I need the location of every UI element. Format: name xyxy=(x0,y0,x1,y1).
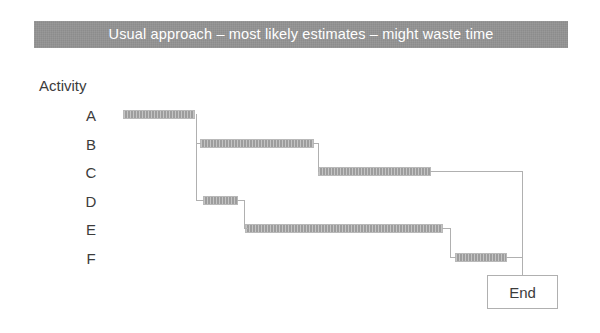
task-bar-d[interactable] xyxy=(203,196,238,205)
axis-caption-activity: Activity xyxy=(39,78,87,93)
row-label-c: C xyxy=(80,165,102,180)
connector-d-to-e-horizontal xyxy=(244,228,248,229)
title-banner-text: Usual approach – most likely estimates –… xyxy=(109,27,494,42)
end-node-label: End xyxy=(509,285,536,300)
connector-f-to-end-horizontal xyxy=(506,257,523,258)
connector-a-to-bd-vertical xyxy=(196,114,197,200)
row-label-e: E xyxy=(80,222,102,237)
row-label-a: A xyxy=(80,108,102,123)
task-bar-e[interactable] xyxy=(245,224,443,233)
connector-e-to-f-horizontal xyxy=(450,257,456,258)
row-label-f: F xyxy=(80,251,102,266)
title-banner: Usual approach – most likely estimates –… xyxy=(34,21,568,48)
connector-a-to-b-horizontal xyxy=(196,143,201,144)
row-label-d: D xyxy=(80,194,102,209)
connector-a-to-d-horizontal xyxy=(196,200,204,201)
task-bar-a[interactable] xyxy=(123,110,195,119)
connector-e-to-f-vertical xyxy=(450,228,451,257)
connector-b-to-c-vertical xyxy=(318,143,319,172)
end-node[interactable]: End xyxy=(487,275,558,309)
task-bar-b[interactable] xyxy=(200,139,314,148)
row-label-b: B xyxy=(80,137,102,152)
connector-c-to-end-vertical xyxy=(522,171,523,276)
connector-c-to-end-horizontal xyxy=(430,171,523,172)
task-bar-c[interactable] xyxy=(318,167,431,176)
task-bar-f[interactable] xyxy=(455,253,507,262)
connector-d-to-e-vertical xyxy=(244,200,245,229)
slide-canvas: Usual approach – most likely estimates –… xyxy=(0,0,600,333)
